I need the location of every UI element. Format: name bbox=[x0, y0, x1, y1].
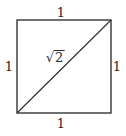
top-side-label: 1 bbox=[57, 6, 65, 19]
bottom-side-label: 1 bbox=[57, 117, 65, 130]
diagonal-radicand: 2 bbox=[54, 50, 64, 64]
diagonal-line bbox=[17, 20, 111, 113]
diagonal-length-label: √2 bbox=[46, 50, 65, 64]
right-side-label: 1 bbox=[113, 60, 121, 73]
left-side-label: 1 bbox=[5, 60, 13, 73]
square-root-symbol: √ bbox=[46, 51, 54, 64]
unit-square-diagram: 1 1 1 1 √2 bbox=[0, 0, 126, 136]
